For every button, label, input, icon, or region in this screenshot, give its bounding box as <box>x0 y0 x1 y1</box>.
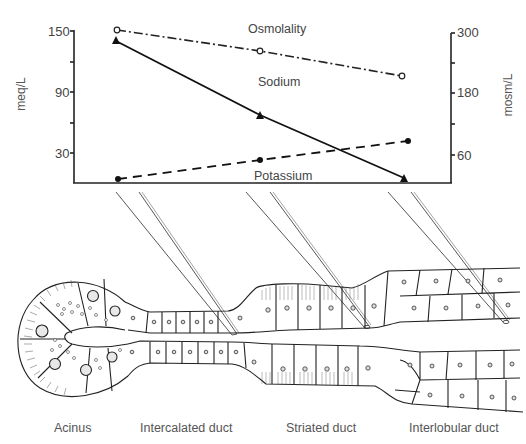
potassium-point-striated <box>257 157 263 163</box>
sodium-point-interlobular <box>400 174 408 182</box>
region-label-acinus: Acinus <box>54 421 92 435</box>
saliva-composition-figure: 150 90 30 300 180 60 meq/L mosm/L Osmola… <box>0 0 526 444</box>
series-label-potassium: Potassium <box>254 169 312 183</box>
right-tick-300: 300 <box>457 26 479 39</box>
region-label-striated: Striated duct <box>286 421 356 435</box>
series-label-osmolality: Osmolality <box>248 22 306 36</box>
micropipettes <box>116 192 510 335</box>
osmolality-point-interlobular <box>399 73 405 79</box>
duct-diagram <box>18 268 523 412</box>
duct-nuclei <box>130 278 516 400</box>
region-label-intercalated: Intercalated duct <box>140 421 232 435</box>
right-tick-60: 60 <box>457 149 471 162</box>
series-label-sodium: Sodium <box>258 75 300 89</box>
potassium-point-interlobular <box>405 138 411 144</box>
micropipette-intercalated <box>116 192 239 335</box>
left-axis-title: meq/L <box>14 77 28 110</box>
right-axis-title: mosm/L <box>501 74 515 117</box>
left-tick-150: 150 <box>48 25 70 38</box>
duct-upper-inner <box>128 318 520 333</box>
osmolality-point-striated <box>257 48 263 54</box>
duct-lower-inner <box>128 341 520 352</box>
micropipette-interlobular <box>388 192 510 324</box>
sodium-point-acinus <box>112 36 120 44</box>
chart-svg <box>0 0 526 444</box>
left-tick-90: 90 <box>55 86 69 99</box>
left-tick-30: 30 <box>55 147 69 160</box>
right-tick-180: 180 <box>457 86 479 99</box>
region-label-interlobular: Interlobular duct <box>409 421 499 435</box>
osmolality-point-acinus <box>114 27 120 33</box>
sodium-point-striated <box>256 111 264 119</box>
potassium-point-acinus <box>115 176 121 182</box>
